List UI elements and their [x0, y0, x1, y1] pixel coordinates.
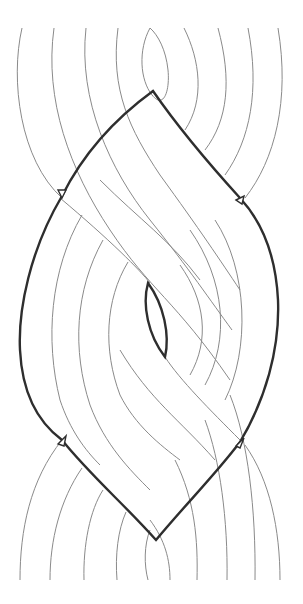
strand — [116, 512, 126, 580]
braid-diagram — [0, 0, 303, 604]
strand — [150, 520, 170, 580]
strand — [145, 530, 150, 580]
strand — [142, 28, 168, 100]
strand — [85, 28, 232, 330]
strand — [205, 28, 226, 150]
strand — [50, 468, 82, 580]
strand — [175, 460, 197, 580]
strand — [215, 220, 242, 400]
strand — [180, 265, 202, 375]
strand — [52, 215, 100, 465]
strand — [20, 440, 62, 580]
contour-notch-icon — [58, 190, 66, 198]
strand — [184, 28, 198, 130]
strand — [79, 240, 150, 490]
strand — [165, 357, 240, 440]
crossing-lines — [60, 180, 240, 460]
strand — [17, 28, 62, 198]
strand — [84, 490, 103, 580]
strand — [116, 28, 240, 290]
bottom-strands — [20, 395, 280, 580]
strand — [120, 350, 215, 460]
strand — [205, 420, 227, 580]
strand — [225, 28, 253, 175]
strand — [60, 198, 150, 283]
inner-lens — [146, 283, 167, 357]
strand — [245, 445, 280, 580]
strand — [109, 262, 180, 460]
